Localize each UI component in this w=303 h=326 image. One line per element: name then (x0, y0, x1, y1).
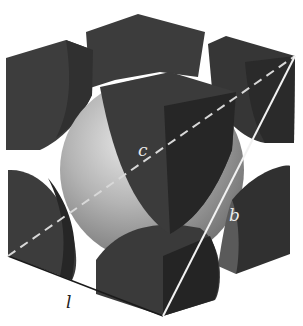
label-c: c (138, 140, 148, 160)
bcc-unit-cell-diagram (0, 0, 303, 326)
corner-atom-back-top (86, 14, 205, 88)
label-b: b (229, 205, 240, 225)
label-l: l (66, 292, 71, 312)
